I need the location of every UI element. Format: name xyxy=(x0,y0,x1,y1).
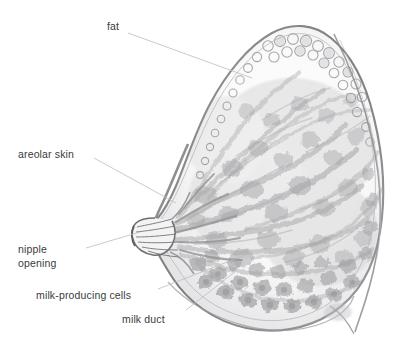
leader-areolar-skin xyxy=(94,158,176,203)
leader-fat xyxy=(128,33,252,78)
label-milk-producing-cells: milk-producing cells xyxy=(36,289,131,303)
label-fat: fat xyxy=(107,20,119,34)
label-milk-duct: milk duct xyxy=(122,313,165,327)
label-nipple-opening: nipple opening xyxy=(18,243,56,270)
fold-shadow xyxy=(324,303,352,321)
label-areolar-skin: areolar skin xyxy=(18,148,74,162)
breast-anatomy-figure: fat areolar skin nipple opening milk-pro… xyxy=(0,0,416,355)
